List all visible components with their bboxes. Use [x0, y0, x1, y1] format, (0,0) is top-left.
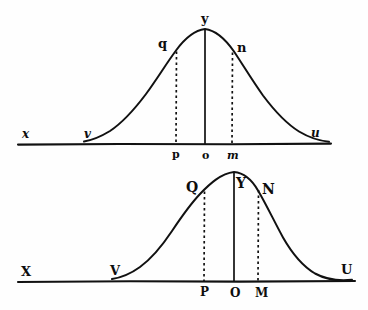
- upper-axis-left-label-x: x: [22, 128, 29, 140]
- lower-left-inflection-label-Q: Q: [186, 180, 198, 194]
- upper-ordinate-p: [176, 52, 177, 145]
- lower-foot-label-P: P: [200, 286, 209, 298]
- upper-foot-label-p: p: [172, 149, 180, 160]
- lower-ordinate-P: [204, 192, 205, 282]
- upper-ordinate-m: [232, 53, 233, 145]
- upper-baseline-axis: [18, 144, 331, 145]
- upper-gaussian-curve: [84, 29, 329, 142]
- upper-left-tail-label-v: v: [84, 128, 91, 140]
- upper-peak-label-y: y: [201, 12, 209, 25]
- upper-foot-label-m: m: [227, 150, 239, 161]
- upper-chart-group: [18, 29, 331, 145]
- lower-left-tail-label-V: V: [110, 264, 120, 277]
- lower-foot-label-O: O: [230, 287, 240, 299]
- lower-peak-label-Y: Y: [236, 176, 246, 190]
- lower-gaussian-curve: [112, 172, 352, 280]
- upper-axis-right-label-u: u: [311, 127, 320, 139]
- lower-ordinate-M: [258, 190, 259, 281]
- lower-axis-left-label-X: X: [21, 265, 31, 278]
- lower-axis-right-label-U: U: [341, 263, 352, 276]
- lower-baseline-axis: [18, 281, 355, 282]
- lower-right-inflection-label-N: N: [262, 182, 275, 196]
- upper-right-inflection-label-n: n: [237, 41, 246, 54]
- figure-canvas: [0, 0, 368, 310]
- normal-curve-figure: y q n x v u p o m Y Q N X V U P O M: [0, 0, 368, 310]
- lower-foot-label-M: M: [255, 287, 268, 299]
- upper-foot-label-o: o: [202, 150, 209, 161]
- upper-left-inflection-label-q: q: [158, 37, 167, 50]
